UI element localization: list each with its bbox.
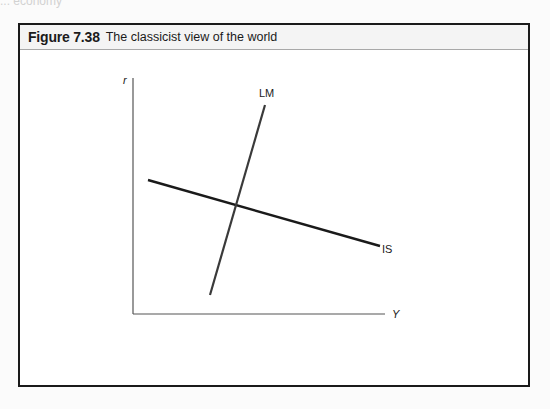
is-curve [148, 180, 380, 246]
lm-label: LM [259, 87, 274, 99]
y-axis-label: r [123, 74, 128, 86]
is-label: IS [382, 243, 392, 255]
islm-diagram: r Y IS LM [0, 0, 550, 409]
x-axis-label: Y [392, 308, 400, 320]
